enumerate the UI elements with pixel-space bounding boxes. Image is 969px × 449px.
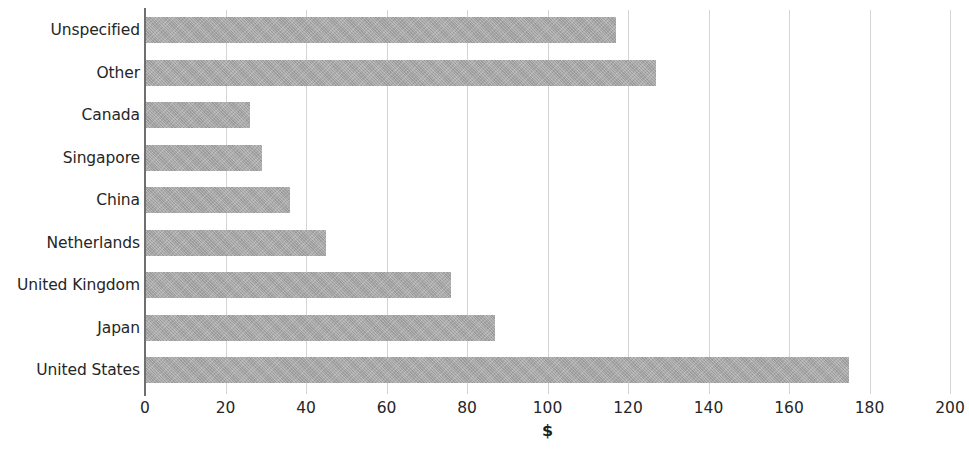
category-label-text: Netherlands — [0, 230, 140, 256]
category-label-china: China — [0, 187, 140, 213]
bar — [145, 187, 290, 213]
x-tick-label: 100 — [518, 398, 578, 418]
category-label-text: Canada — [0, 102, 140, 128]
category-label-other: Other — [0, 60, 140, 86]
x-tick-label: 20 — [196, 398, 256, 418]
x-tick-label: 160 — [759, 398, 819, 418]
x-tick-label: 40 — [276, 398, 336, 418]
gridline — [950, 10, 951, 394]
bar-fill — [145, 187, 290, 213]
category-label-text: Other — [0, 60, 140, 86]
category-label-netherlands: Netherlands — [0, 230, 140, 256]
category-label-text: United Kingdom — [0, 272, 140, 298]
bar — [145, 17, 616, 43]
bar — [145, 230, 326, 256]
bar — [145, 272, 451, 298]
x-tick-label: 60 — [357, 398, 417, 418]
bar — [145, 102, 250, 128]
plot-area — [145, 10, 950, 394]
bar-fill — [145, 230, 326, 256]
category-label-canada: Canada — [0, 102, 140, 128]
category-label-unspecified: Unspecified — [0, 17, 140, 43]
category-label-text: Japan — [0, 315, 140, 341]
bar-fill — [145, 315, 495, 341]
bar — [145, 145, 262, 171]
gridline — [709, 10, 710, 394]
category-label-united-kingdom: United Kingdom — [0, 272, 140, 298]
bar — [145, 357, 849, 383]
x-tick-label: 140 — [679, 398, 739, 418]
y-axis-line — [144, 8, 146, 396]
gridline — [789, 10, 790, 394]
gridline — [870, 10, 871, 394]
category-label-text: Singapore — [0, 145, 140, 171]
x-tick-label: 0 — [115, 398, 175, 418]
category-label-text: United States — [0, 357, 140, 383]
x-tick-label: 180 — [840, 398, 900, 418]
bar — [145, 315, 495, 341]
bar-fill — [145, 357, 849, 383]
bar-fill — [145, 145, 262, 171]
bar-fill — [145, 60, 656, 86]
x-tick-label: 200 — [920, 398, 969, 418]
category-label-singapore: Singapore — [0, 145, 140, 171]
category-label-united-states: United States — [0, 357, 140, 383]
bar-fill — [145, 272, 451, 298]
bar-fill — [145, 17, 616, 43]
category-label-text: China — [0, 187, 140, 213]
bar-fill — [145, 102, 250, 128]
bar — [145, 60, 656, 86]
category-label-japan: Japan — [0, 315, 140, 341]
x-tick-label: 120 — [598, 398, 658, 418]
category-label-text: Unspecified — [0, 17, 140, 43]
x-axis-title: $ — [508, 421, 588, 441]
x-tick-label: 80 — [437, 398, 497, 418]
